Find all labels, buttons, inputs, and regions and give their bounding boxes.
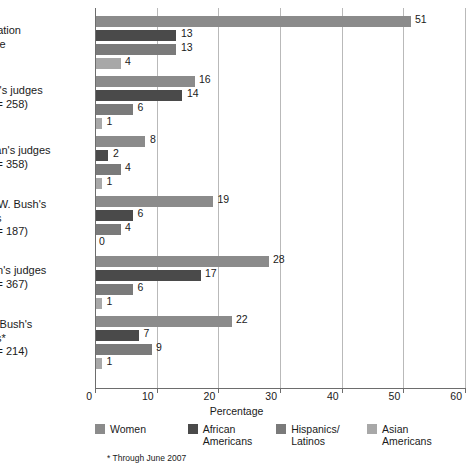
x-tick-label-60: 60 [450,390,465,402]
x-tick-40 [342,388,343,393]
bar-row: 9 [95,344,465,355]
x-tick-label-10: 10 [142,390,157,402]
bar-women [96,76,195,87]
bar-value: 1 [107,356,113,367]
bar-women [96,316,232,327]
bar-row: 1 [95,358,465,369]
bar-value: 6 [138,282,144,293]
bar-value: 1 [107,116,113,127]
bar-row: 14 [95,90,465,101]
legend-label: African Americans [203,423,253,447]
bar-value: 4 [125,162,131,173]
category-label-population-at-large: Population at large [0,24,89,51]
bar-value: 22 [236,314,248,325]
bar-value: 17 [205,268,217,279]
bar-value: 6 [138,208,144,219]
x-tick-20 [218,388,219,393]
bar-value: 13 [181,42,193,53]
bar-row: 4 [95,58,465,69]
bar-asian-americans [96,298,102,309]
category-label-carters-judges: Carter's judges (total = 258) [0,84,89,111]
bar-african-americans [96,150,108,161]
bar-row: 13 [95,30,465,41]
bar-group-carters-judges: 16 14 6 1 [95,76,465,132]
bar-row: 17 [95,270,465,281]
x-tick-30 [280,388,281,393]
bar-row: 1 [95,178,465,189]
x-tick-label-50: 50 [389,390,404,402]
bar-chart: 51 13 13 4 16 14 [0,0,473,470]
bar-row: 51 [95,16,465,27]
bar-value: 14 [187,88,199,99]
legend-label: Asian Americans [382,423,432,447]
bar-value: 8 [150,134,156,145]
bar-value: 9 [156,342,162,353]
bar-women [96,16,411,27]
bar-women [96,196,213,207]
bar-asian-americans [96,118,102,129]
bar-value: 16 [199,74,211,85]
bar-row: 4 [95,224,465,235]
bar-value: 13 [181,28,193,39]
legend-label: Women [110,423,146,435]
x-tick-60 [465,388,466,393]
bar-hispanics-latinos [96,224,121,235]
bar-value: 1 [107,296,113,307]
x-tick-50 [403,388,404,393]
bar-row: 6 [95,284,465,295]
bar-value: 1 [107,176,113,187]
bar-value: 4 [125,222,131,233]
bar-african-americans [96,330,139,341]
legend-swatch-women-icon [95,424,105,434]
legend-swatch-hispanics-latinos-icon [276,424,286,434]
bar-row: 4 [95,164,465,175]
bar-group-gw-bush-judges: 22 7 9 1 [95,316,465,372]
legend-item-african-americans: African Americans [188,423,258,447]
x-tick-label-30: 30 [265,390,280,402]
category-label-reagans-judges: Reagan's judges (total = 358) [0,144,89,171]
bar-row: 19 [95,196,465,207]
bar-value: 0 [99,236,105,247]
bar-women [96,136,145,147]
bar-hispanics-latinos [96,344,152,355]
bar-row: 1 [95,298,465,309]
bar-hispanics-latinos [96,104,133,115]
legend-item-asian-americans: Asian Americans [367,423,435,447]
bar-african-americans [96,90,182,101]
bar-value: 19 [218,194,230,205]
bar-african-americans [96,30,176,41]
bar-hispanics-latinos [96,284,133,295]
bar-value: 4 [125,56,131,67]
legend-swatch-asian-americans-icon [367,424,377,434]
bar-asian-americans [96,358,102,369]
x-tick-label-40: 40 [327,390,342,402]
category-label-ghw-bush-judges: G. H. W. Bush's judges (total = 187) [0,198,89,239]
bar-row: 28 [95,256,465,267]
plot-area: 51 13 13 4 16 14 [95,8,465,388]
bar-row: 6 [95,210,465,221]
bar-group-clintons-judges: 28 17 6 1 [95,256,465,312]
bar-row: 13 [95,44,465,55]
bar-value: 51 [415,14,427,25]
bar-value: 7 [144,328,150,339]
bar-row: 2 [95,150,465,161]
bar-asian-americans [96,58,121,69]
gridline-60 [465,8,466,388]
bar-asian-americans [96,178,102,189]
bar-group-ghw-bush-judges: 19 6 4 0 [95,196,465,252]
footnote: * Through June 2007 [107,453,186,463]
bar-value: 28 [273,254,285,265]
bar-african-americans [96,210,133,221]
bar-row: 16 [95,76,465,87]
bar-value: 2 [113,148,119,159]
bar-group-reagans-judges: 8 2 4 1 [95,136,465,192]
category-label-clintons-judges: Clinton's judges (total = 367) [0,264,89,291]
bar-women [96,256,269,267]
legend-item-hispanics-latinos: Hispanics/ Latinos [276,423,349,447]
bar-hispanics-latinos [96,44,176,55]
x-tick-label-20: 20 [204,390,219,402]
legend-label: Hispanics/ Latinos [291,423,339,447]
bar-value: 6 [138,102,144,113]
category-label-gw-bush-judges: G. W. Bush's judges* (total = 214) [0,318,89,359]
bar-row: 1 [95,118,465,129]
